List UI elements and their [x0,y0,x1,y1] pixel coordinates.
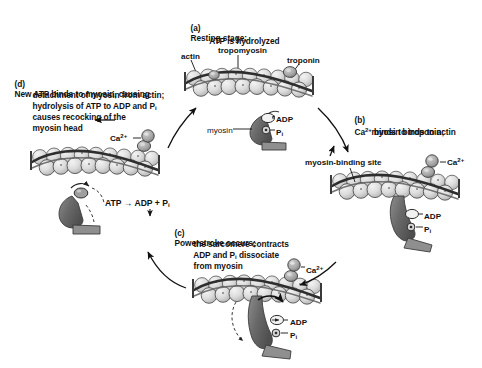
myosin-tail-stage-a [262,142,286,150]
stage-d-complex [31,120,159,234]
troponin-stage-b [421,167,434,178]
cycle-arrow-d-to-a [168,108,196,148]
pi-molecule-stage-a [262,126,270,134]
myosin-tail-stage-b [404,238,432,252]
atp-molecule-stage-d [74,188,88,198]
adp-molecule-stage-b [406,209,419,218]
calcium-ion-stage-b [426,155,438,167]
binding-site-arrow [330,146,334,156]
actin-filament-stage-d [31,147,159,176]
troponin-stage-a-2 [209,71,220,80]
diagram-graphics [0,0,482,368]
recock-arrow [71,184,89,188]
cycle-arrow-a-to-b [318,108,348,152]
cycle-arrow-c-to-d [148,252,186,288]
stage-a-complex [185,55,313,150]
troponin-stage-c [284,271,297,282]
stage-b-complex [331,155,459,252]
pi-molecule-stage-c [272,329,280,337]
myosin-stage-d [59,196,100,234]
pi-molecule-stage-b [407,223,415,231]
myosin-tail-stage-c [262,345,291,359]
myosin-tail-stage-d [73,225,100,234]
powerstroke-dashed-arrow [232,302,243,341]
troponin-stage-a [283,67,296,78]
stage-c-complex [193,259,321,359]
adp-molecule-stage-c [271,315,284,324]
myosin-stage-c [248,296,291,359]
calcium-ion-stage-c [288,259,300,271]
actin-leader-line [191,60,196,72]
recock-dashed-arrow [92,188,104,203]
calcium-ion-stage-d [142,130,154,142]
adp-molecule-stage-a [262,113,275,122]
